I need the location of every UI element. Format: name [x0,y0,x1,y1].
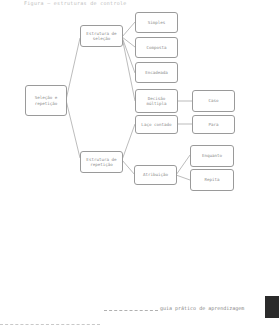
node-multiple-decision: Decisão múltipla [135,89,178,113]
node-repetition-structure: Estrutura de repetição [80,151,123,173]
node-repeat: Repita [190,169,234,191]
node-selection-structure: Estrutura de seleção [80,25,123,47]
node-simple: Simples [135,12,178,33]
footer-title: guia prático de aprendizagem [160,305,244,311]
node-counted-loop: Laço contado [135,115,178,134]
node-for: Para [192,115,235,134]
node-root: Seleção e repetição [25,85,67,116]
node-composite: Composta [135,37,178,58]
node-while: Enquanto [190,145,234,167]
node-nested: Encadeada [135,62,178,83]
footer-dotted-rule [104,310,158,311]
node-case: Caso [192,90,235,112]
footer-dotted-rule-lower [0,324,100,325]
node-assignment: Atribuição [134,165,177,185]
page-edge-tab [265,296,279,318]
